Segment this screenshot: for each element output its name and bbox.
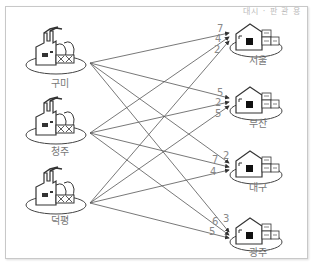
factory-icon-deokpyeong — [26, 167, 86, 214]
source-label-deokpyeong: 덕평 — [51, 212, 69, 227]
edge-label: 3 — [223, 213, 229, 224]
edge-label: 2 — [214, 44, 220, 55]
edge-label: 2 — [215, 97, 221, 108]
factory-icon-gumi — [26, 27, 86, 74]
edge-labels: 7 4 2 5 2 5 7 2 4 6 3 5 — [209, 23, 229, 237]
edge-label: 7 — [212, 154, 218, 165]
dest-label-seoul: 서울 — [249, 52, 267, 67]
edges — [90, 33, 229, 238]
transport-network-diagram: 7 4 2 5 2 5 7 2 4 6 3 5 — [0, 0, 313, 265]
dest-label-gwangju: 광주 — [249, 244, 267, 259]
source-label-cheongju: 청주 — [51, 143, 69, 158]
edge-label: 2 — [223, 150, 229, 161]
edge-label: 5 — [209, 226, 215, 237]
edge-label: 4 — [210, 166, 216, 177]
source-label-gumi: 구미 — [51, 75, 69, 90]
factory-icon-cheongju — [26, 97, 86, 144]
edge-label: 4 — [215, 33, 221, 44]
dest-label-busan: 부산 — [249, 115, 267, 130]
dest-label-daegu: 대구 — [249, 179, 267, 194]
edge-label: 5 — [215, 108, 221, 119]
